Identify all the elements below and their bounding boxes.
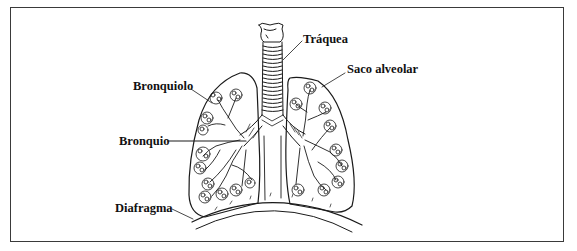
diaphragm-leader <box>172 209 193 219</box>
right-alveolar-clusters <box>290 82 348 196</box>
alveolar-sac-leader <box>322 73 345 87</box>
right-bronchial-tree <box>296 90 342 190</box>
trachea-leader <box>283 41 302 60</box>
main-bronchi-shape <box>240 115 305 200</box>
trachea-label: Tráquea <box>303 33 348 46</box>
larynx-shape <box>259 23 283 42</box>
bronchus-label: Bronquio <box>119 135 170 148</box>
trachea-shape <box>262 42 283 126</box>
alveolar-sac-label: Saco alveolar <box>347 63 418 76</box>
diaphragm-label: Diafragma <box>115 202 173 215</box>
bronchiole-label: Bronquiolo <box>133 80 193 93</box>
left-alveolar-clusters <box>194 89 255 203</box>
lungs-illustration <box>0 0 577 251</box>
bronchiole-leader <box>191 89 212 103</box>
